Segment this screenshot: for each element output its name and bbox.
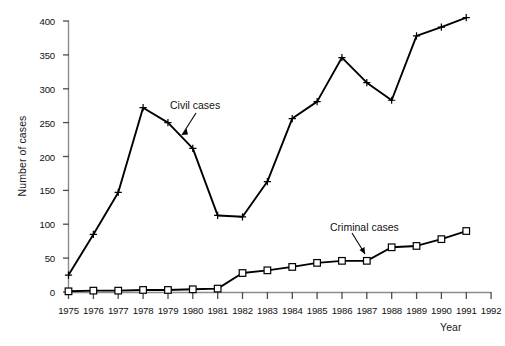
data-point-marker (214, 285, 221, 292)
data-point-marker (463, 228, 470, 235)
data-point-marker (239, 270, 246, 277)
data-point-marker (90, 287, 97, 294)
line-chart-figure: Number of cases Year 400 350 300 250 200… (0, 0, 505, 346)
data-point-marker (65, 288, 72, 295)
data-point-marker (463, 14, 470, 21)
data-point-marker (413, 243, 420, 250)
data-point-marker (438, 24, 445, 31)
data-point-marker (264, 267, 271, 274)
data-point-marker (189, 286, 196, 293)
data-point-marker (115, 287, 122, 294)
annotation-arrow-criminal (352, 233, 365, 254)
data-point-marker (165, 287, 172, 294)
data-point-marker (438, 236, 445, 243)
series-civil-cases (65, 14, 470, 279)
data-point-marker (339, 258, 346, 265)
data-point-marker (388, 244, 395, 251)
data-point-marker (314, 260, 321, 267)
chart-plot-area (0, 0, 505, 346)
annotation-arrow-civil (182, 113, 196, 135)
series-criminal-cases (65, 228, 469, 295)
data-series-layer (65, 14, 470, 295)
series-line (69, 18, 467, 275)
data-point-marker (289, 264, 296, 271)
data-point-marker (413, 32, 420, 39)
data-point-marker (214, 212, 221, 219)
data-point-marker (140, 287, 147, 294)
series-line (69, 231, 467, 291)
data-point-marker (364, 258, 371, 265)
